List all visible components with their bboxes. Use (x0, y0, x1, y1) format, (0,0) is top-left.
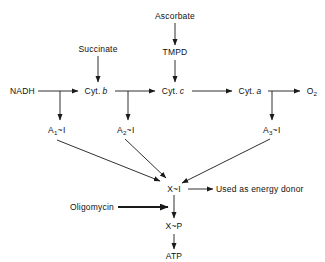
cyt-b-letter: b (102, 86, 107, 96)
arrow-a1-to-xi (57, 140, 160, 181)
node-a1-tilde-i: A1~I (48, 126, 66, 135)
oxygen-subscript: 2 (314, 90, 318, 97)
node-atp: ATP (166, 252, 183, 261)
electron-transport-chain-diagram: Ascorbate TMPD Succinate NADH Cyt.b Cyt.… (0, 0, 325, 262)
node-a3-tilde-i: A3~I (263, 126, 281, 135)
a2-base: A (117, 125, 123, 135)
node-x-tilde-p: X~P (166, 222, 183, 231)
node-succinate: Succinate (78, 45, 117, 54)
node-x-tilde-i: X~I (167, 185, 181, 194)
a1-tail: ~I (58, 125, 66, 135)
a3-tail: ~I (273, 125, 281, 135)
node-oligomycin: Oligomycin (70, 203, 114, 212)
node-nadh: NADH (10, 87, 35, 96)
a1-subscript: 1 (54, 129, 58, 136)
tmpd-label: TMPD (163, 47, 188, 57)
cyt-c-letter: c (180, 86, 184, 96)
energy-donor-label: Used as energy donor (216, 184, 304, 194)
oxygen-base: O (307, 86, 314, 96)
succinate-label: Succinate (78, 44, 117, 54)
x-tilde-p-label: X~P (166, 221, 183, 231)
node-cyt-a: Cyt.a (239, 87, 262, 96)
atp-label: ATP (166, 251, 183, 261)
a3-base: A (263, 125, 269, 135)
cyt-a-prefix: Cyt. (239, 86, 255, 96)
node-ascorbate: Ascorbate (155, 12, 195, 21)
cyt-b-prefix: Cyt. (85, 86, 101, 96)
a2-subscript: 2 (123, 129, 127, 136)
arrow-a3-to-xi (182, 139, 270, 183)
cyt-c-prefix: Cyt. (162, 86, 178, 96)
node-energy-donor: Used as energy donor (216, 185, 304, 194)
x-tilde-i-label: X~I (167, 184, 181, 194)
node-cyt-c: Cyt.c (162, 87, 184, 96)
a3-subscript: 3 (269, 129, 273, 136)
node-a2-tilde-i: A2~I (117, 126, 135, 135)
nadh-label: NADH (10, 86, 35, 96)
arrow-a2-to-xi (125, 139, 166, 178)
cyt-a-letter: a (256, 86, 261, 96)
node-cyt-b: Cyt.b (85, 87, 108, 96)
a1-base: A (48, 125, 54, 135)
ascorbate-label: Ascorbate (155, 11, 195, 21)
node-tmpd: TMPD (163, 48, 188, 57)
oligomycin-label: Oligomycin (70, 202, 114, 212)
node-oxygen: O2 (307, 87, 317, 96)
a2-tail: ~I (127, 125, 135, 135)
